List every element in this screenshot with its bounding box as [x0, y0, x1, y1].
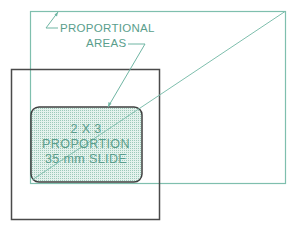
- slide-text-ratio: 2 X 3: [70, 122, 101, 136]
- slide-text-format: 35 mm SLIDE: [45, 152, 127, 166]
- leader-line-right: [108, 44, 145, 107]
- label-proportional: PROPORTIONAL: [60, 22, 155, 34]
- proportional-areas-diagram: PROPORTIONAL AREAS 2 X 3 PROPORTION 35 m…: [0, 0, 299, 232]
- label-areas: AREAS: [86, 37, 127, 49]
- slide-text-proportion: PROPORTION: [42, 137, 130, 151]
